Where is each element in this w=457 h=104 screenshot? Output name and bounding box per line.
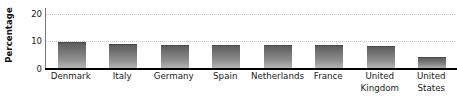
x-axis-tick-label-line: Germany [148, 71, 200, 83]
x-axis-tick-label-line: States [406, 83, 457, 95]
y-axis-tick-label: 0 [18, 65, 42, 74]
x-axis-tick-label-line: Kingdom [354, 83, 406, 95]
x-axis-tick-label-line: France [303, 71, 355, 83]
bar [315, 45, 343, 69]
plot-area [45, 8, 455, 69]
x-axis-tick-label-line: Spain [200, 71, 252, 83]
x-axis-tick-label: Italy [97, 71, 149, 83]
y-axis-title: Percentage [0, 0, 18, 70]
x-axis-tick-label: Germany [148, 71, 200, 83]
bar [212, 45, 240, 69]
x-axis-tick-label: UnitedStates [406, 71, 457, 94]
x-axis-tick-label: Netherlands [251, 71, 303, 83]
x-axis-tick-label: Denmark [45, 71, 97, 83]
x-axis-tick-label-line: Italy [97, 71, 149, 83]
bar-chart-figure: Percentage 01020 DenmarkItalyGermanySpai… [0, 0, 457, 104]
x-axis-line [45, 68, 457, 70]
y-axis-title-text: Percentage [4, 7, 14, 63]
bar [264, 45, 292, 69]
x-axis-tick-label-line: Netherlands [251, 71, 303, 83]
x-axis-tick-label-line: United [354, 71, 406, 83]
bar [161, 45, 189, 69]
bar-series [46, 8, 455, 69]
bar [58, 42, 86, 69]
x-axis-tick-label: UnitedKingdom [354, 71, 406, 94]
x-axis-tick-labels: DenmarkItalyGermanySpainNetherlandsFranc… [45, 71, 457, 104]
y-axis-tick-label: 10 [18, 37, 42, 46]
bar [367, 46, 395, 69]
y-axis-tick-labels: 01020 [18, 0, 42, 70]
x-axis-tick-label: France [303, 71, 355, 83]
x-axis-tick-label: Spain [200, 71, 252, 83]
x-axis-tick-label-line: Denmark [45, 71, 97, 83]
x-axis-tick-label-line: United [406, 71, 457, 83]
y-axis-tick-label: 20 [18, 9, 42, 18]
bar [109, 44, 137, 70]
